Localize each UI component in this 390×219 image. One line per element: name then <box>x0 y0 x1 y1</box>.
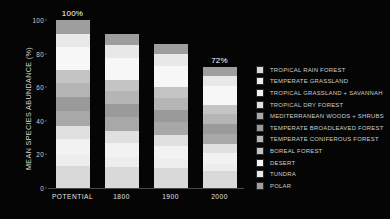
bar-segment[interactable] <box>203 76 237 87</box>
legend-swatch-icon <box>256 89 264 97</box>
legend-swatch-icon <box>256 147 264 155</box>
x-axis-line <box>48 188 244 189</box>
bar-segment[interactable] <box>203 114 237 124</box>
bar-segment[interactable] <box>154 110 188 122</box>
legend-item[interactable]: TEMPERATE CONIFEROUS FOREST <box>256 134 384 146</box>
bar-segment[interactable] <box>203 134 237 145</box>
bar-value-label: 100% <box>62 9 83 18</box>
bar-segment[interactable] <box>105 157 139 167</box>
bar-segment[interactable] <box>154 135 188 146</box>
bar-stack[interactable]: 100% <box>56 20 90 188</box>
bar-segment[interactable] <box>56 126 90 139</box>
chart-legend: TROPICAL RAIN FORESTTEMPERATE GRASSLANDT… <box>256 64 384 192</box>
bar-segment[interactable] <box>203 171 237 188</box>
bar-segment[interactable] <box>203 67 237 75</box>
legend-item[interactable]: TUNDRA <box>256 168 384 180</box>
legend-swatch-icon <box>256 77 264 85</box>
x-axis-category-label: 1800 <box>113 193 130 200</box>
y-axis-tick-label: 20 <box>36 151 44 158</box>
bar-segment[interactable] <box>154 168 188 188</box>
bar-segment[interactable] <box>105 104 139 117</box>
legend-item[interactable]: TEMPERATE GRASSLAND <box>256 76 384 88</box>
legend-item[interactable]: MEDITERRANEAN WOODS + SHRUBS <box>256 110 384 122</box>
legend-item-label: TROPICAL DRY FOREST <box>270 102 343 108</box>
legend-item[interactable]: TROPICAL DRY FOREST <box>256 99 384 111</box>
y-axis-tick-label: 100 <box>32 17 44 24</box>
y-axis-tick-label: 60 <box>36 84 44 91</box>
legend-swatch-icon <box>256 159 264 167</box>
legend-swatch-icon <box>256 182 264 190</box>
legend-swatch-icon <box>256 170 264 178</box>
bar-segment[interactable] <box>154 54 188 66</box>
bar-segment[interactable] <box>56 20 90 33</box>
legend-item[interactable]: POLAR <box>256 180 384 192</box>
bar-segment[interactable] <box>56 155 90 166</box>
bar-stack[interactable]: 72% <box>203 67 237 188</box>
legend-item-label: TROPICAL RAIN FOREST <box>270 67 345 73</box>
legend-item[interactable]: DESERT <box>256 157 384 169</box>
bar-segment[interactable] <box>56 83 90 96</box>
bar-segment[interactable] <box>56 34 90 47</box>
bar-segment[interactable] <box>203 153 237 164</box>
bar-stack[interactable] <box>105 34 139 188</box>
legend-item[interactable]: BOREAL FOREST <box>256 145 384 157</box>
plot-area: 100806040200100%72% <box>48 20 244 188</box>
bar-segment[interactable] <box>105 91 139 103</box>
chart-canvas: MEAN SPECIES ABUNDANCE (%) 1008060402001… <box>0 0 390 219</box>
y-axis-tick-label: 80 <box>36 50 44 57</box>
bar-segment[interactable] <box>154 66 188 87</box>
y-axis-tick-mark <box>45 87 47 88</box>
bar-segment[interactable] <box>203 105 237 114</box>
x-axis-category-label: 1900 <box>162 193 179 200</box>
y-axis-tick-mark <box>45 53 47 54</box>
bar-segment[interactable] <box>203 86 237 104</box>
x-axis-category-label: POTENTIAL <box>52 193 93 200</box>
bar-segment[interactable] <box>203 124 237 134</box>
bar-value-label: 72% <box>211 56 228 65</box>
legend-item-label: TROPICAL GRASSLAND + SAVANNAH <box>270 90 383 96</box>
bar-segment[interactable] <box>56 166 90 188</box>
bar-stack[interactable] <box>154 44 188 188</box>
bar-segment[interactable] <box>105 143 139 157</box>
legend-item[interactable]: TEMPERATE BROADLEAVED FOREST <box>256 122 384 134</box>
y-axis-tick-label: 0 <box>40 185 44 192</box>
legend-item-label: TEMPERATE BROADLEAVED FOREST <box>270 125 384 131</box>
legend-item-label: MEDITERRANEAN WOODS + SHRUBS <box>270 113 384 119</box>
bar-segment[interactable] <box>203 144 237 153</box>
y-axis-title: MEAN SPECIES ABUNDANCE (%) <box>24 29 33 189</box>
bar-segment[interactable] <box>56 139 90 155</box>
legend-swatch-icon <box>256 124 264 132</box>
legend-item[interactable]: TROPICAL GRASSLAND + SAVANNAH <box>256 87 384 99</box>
legend-item-label: DESERT <box>270 160 295 166</box>
legend-swatch-icon <box>256 101 264 109</box>
legend-item-label: POLAR <box>270 183 291 189</box>
bar-segment[interactable] <box>154 159 188 168</box>
y-axis-tick-label: 40 <box>36 117 44 124</box>
bar-segment[interactable] <box>154 146 188 159</box>
bar-segment[interactable] <box>154 122 188 135</box>
bar-segment[interactable] <box>203 164 237 171</box>
bar-segment[interactable] <box>105 117 139 131</box>
bar-segment[interactable] <box>154 87 188 98</box>
bar-segment[interactable] <box>105 80 139 92</box>
legend-item[interactable]: TROPICAL RAIN FOREST <box>256 64 384 76</box>
legend-swatch-icon <box>256 112 264 120</box>
legend-swatch-icon <box>256 66 264 74</box>
legend-item-label: TEMPERATE GRASSLAND <box>270 78 348 84</box>
bar-segment[interactable] <box>105 34 139 45</box>
bar-segment[interactable] <box>105 58 139 80</box>
x-axis-category-label: 2000 <box>211 193 228 200</box>
bar-segment[interactable] <box>56 111 90 126</box>
bar-segment[interactable] <box>56 97 90 111</box>
bar-segment[interactable] <box>56 47 90 71</box>
bar-segment[interactable] <box>105 131 139 143</box>
bar-segment[interactable] <box>105 167 139 188</box>
bar-segment[interactable] <box>154 98 188 110</box>
bar-segment[interactable] <box>56 70 90 83</box>
y-axis-tick-mark <box>45 120 47 121</box>
y-axis-tick-mark <box>45 188 47 189</box>
bar-segment[interactable] <box>105 45 139 58</box>
y-axis-tick-mark <box>45 154 47 155</box>
y-axis-tick-mark <box>45 20 47 21</box>
bar-segment[interactable] <box>154 44 188 55</box>
